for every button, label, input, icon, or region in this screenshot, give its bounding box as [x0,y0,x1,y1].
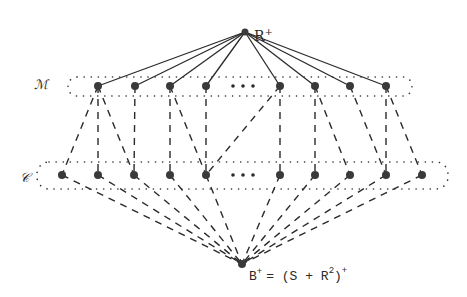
r-to-m-edges [98,32,386,86]
solid-edge [98,32,245,86]
lattice-diagram: R+ ℳ 𝒞 B+= (S + R2)+ [0,0,467,297]
c-node [58,171,66,179]
dashed-edge [242,175,386,264]
m-node [276,82,284,90]
dashed-edge [98,175,242,264]
m-node [202,82,210,90]
m-node [382,82,390,90]
c-node [276,171,284,179]
dashed-edge [134,175,242,264]
c-node [346,171,354,179]
dashed-edge [98,86,134,175]
c-node [130,171,138,179]
ellipsis-dot [241,84,245,88]
c-node [94,171,102,179]
layer-m-label: ℳ [34,77,50,92]
c-node [418,171,426,179]
c-node [311,171,319,179]
solid-edge [245,32,386,86]
layer-m-box [68,77,412,96]
ellipsis-dot [231,84,235,88]
dashed-edge [62,86,98,175]
c-to-b-edges [62,175,422,264]
c-node [166,171,174,179]
ellipsis-dot [231,173,235,177]
bottom-node [238,260,246,268]
solid-edge [206,32,245,86]
c-node [382,171,390,179]
m-node [131,82,139,90]
c-node [202,171,210,179]
dashed-edge [170,86,206,175]
m-node [346,82,354,90]
nodes [58,29,426,269]
top-node [242,29,249,36]
dashed-edge [242,175,350,264]
layer-c-label: 𝒞 [20,170,33,185]
solid-edge [170,32,245,86]
m-node [311,82,319,90]
ellipsis-dot [251,84,255,88]
m-node [94,82,102,90]
ellipsis-dot [241,173,245,177]
solid-edge [135,32,245,86]
bottom-node-label: B+= (S + R2)+ [249,266,347,284]
m-node [166,82,174,90]
ellipsis-dot [251,173,255,177]
